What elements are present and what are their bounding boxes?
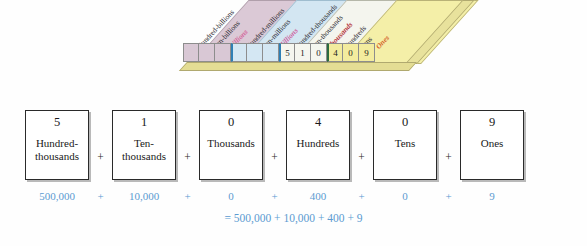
box-digit: 9 — [461, 116, 523, 130]
value-plus-1: + — [89, 190, 112, 202]
value-ones: 9 — [460, 190, 524, 202]
chart-bottom-edge — [179, 62, 417, 71]
place-value-chart: Hundred-billions Ten-billions Billions H… — [183, 0, 433, 72]
chart-cell-ten-millions — [247, 43, 263, 62]
box-digit: 1 — [113, 116, 175, 130]
value-hundred-thousands: 500,000 — [25, 190, 89, 202]
chart-cell-ten-billions — [199, 43, 215, 62]
chart-cell-ones: 9 — [359, 43, 375, 62]
plus-sign-4: + — [350, 152, 373, 164]
chart-cell-hundred-billions — [183, 43, 199, 62]
box-place-line1: Hundred- — [36, 137, 78, 149]
value-plus-4: + — [350, 190, 373, 202]
plus-sign-5: + — [437, 152, 460, 164]
place-value-box-ten-thousands: 1 Ten-thousands — [112, 110, 176, 180]
expanded-form-row: 5 Hundred-thousands + 1 Ten-thousands + … — [25, 110, 565, 180]
box-place-label: Hundred-thousands — [26, 137, 88, 163]
plus-sign-2: + — [176, 152, 199, 164]
box-place-label: Thousands — [200, 137, 262, 150]
chart-cell-billions — [215, 43, 231, 62]
place-value-box-hundreds: 4 Hundreds — [286, 110, 350, 180]
value-plus-2: + — [176, 190, 199, 202]
box-place-label: Ten-thousands — [113, 137, 175, 163]
value-plus-3: + — [263, 190, 286, 202]
chart-label-ones: Ones — [375, 34, 391, 50]
place-value-box-ones: 9 Ones — [460, 110, 524, 180]
box-digit: 4 — [287, 116, 349, 130]
value-tens: 0 — [373, 190, 437, 202]
value-ten-thousands: 10,000 — [112, 190, 176, 202]
place-value-box-thousands: 0 Thousands — [199, 110, 263, 180]
chart-digit-row: 5 1 0 4 0 9 — [183, 43, 375, 63]
total-equation: = 500,000 + 10,000 + 400 + 9 — [0, 212, 587, 224]
chart-cell-ten-thousands: 1 — [295, 43, 311, 62]
box-place-label: Tens — [374, 137, 436, 150]
chart-cell-thousands: 0 — [311, 43, 327, 62]
place-values-row: 500,000 + 10,000 + 0 + 400 + 0 + 9 — [25, 190, 565, 202]
box-digit: 0 — [374, 116, 436, 130]
plus-sign-3: + — [263, 152, 286, 164]
box-digit: 0 — [200, 116, 262, 130]
chart-cell-tens: 0 — [343, 43, 359, 62]
value-thousands: 0 — [199, 190, 263, 202]
box-place-line2: thousands — [35, 150, 79, 162]
value-plus-5: + — [437, 190, 460, 202]
chart-cell-hundred-thousands: 5 — [279, 43, 295, 62]
plus-sign-1: + — [89, 152, 112, 164]
box-digit: 5 — [26, 116, 88, 130]
value-hundreds: 400 — [286, 190, 350, 202]
box-place-line1: Ten- — [134, 137, 154, 149]
box-place-label: Ones — [461, 137, 523, 150]
box-place-label: Hundreds — [287, 137, 349, 150]
chart-cell-millions — [263, 43, 279, 62]
chart-cell-hundred-millions — [231, 43, 247, 62]
box-place-line2: thousands — [122, 150, 166, 162]
place-value-box-tens: 0 Tens — [373, 110, 437, 180]
chart-cell-hundreds: 4 — [327, 43, 343, 62]
place-value-box-hundred-thousands: 5 Hundred-thousands — [25, 110, 89, 180]
